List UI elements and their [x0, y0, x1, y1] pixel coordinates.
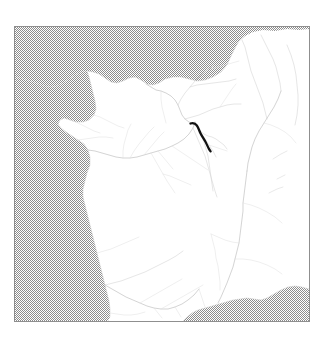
river-eure: [161, 91, 166, 123]
river-garonne: [105, 285, 199, 309]
river-indre: [158, 151, 173, 169]
map-frame: [14, 26, 310, 322]
river-doubs: [264, 123, 296, 143]
river-charente: [97, 237, 139, 253]
river-dordogne: [105, 251, 183, 285]
river-aude: [199, 289, 205, 307]
river-marne-branch: [220, 84, 236, 107]
river-pyrenees-2: [175, 307, 181, 317]
river-brittany-north: [94, 115, 124, 128]
sea-english-channel: [15, 27, 309, 87]
alpine-lake-1: [273, 151, 287, 159]
river-rhine: [287, 45, 298, 125]
river-ardeche: [211, 234, 239, 243]
river-durance: [235, 259, 282, 274]
river-saone: [247, 91, 281, 171]
river-cher: [172, 146, 208, 170]
river-lot: [140, 279, 182, 303]
river-marne: [185, 104, 241, 119]
river-brittany-west: [70, 120, 100, 133]
alpine-lake-2: [277, 175, 285, 179]
river-yonne-branch: [209, 145, 227, 151]
river-loire-upper: [195, 122, 213, 191]
river-rhone: [218, 171, 247, 303]
river-vienne: [151, 153, 175, 193]
alpine-lake-3: [269, 187, 283, 193]
river-pyrenees-1: [154, 308, 162, 318]
river-moselle: [261, 35, 281, 91]
river-loire: [88, 122, 195, 158]
river-tarn: [161, 285, 203, 309]
river-mayenne: [123, 124, 131, 158]
river-adour: [110, 312, 145, 315]
river-isere: [243, 203, 282, 223]
page-root: [0, 0, 326, 347]
sea-mediterranean: [183, 286, 309, 321]
sea-layer: [15, 27, 309, 321]
map-canvas: [15, 27, 309, 321]
river-herault: [211, 234, 220, 290]
river-meuse: [242, 40, 267, 119]
river-loir: [144, 132, 164, 155]
river-creuse: [163, 174, 191, 185]
river-vilaine: [78, 137, 113, 140]
